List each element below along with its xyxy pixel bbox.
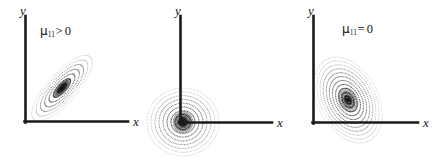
y-axis-label: y (18, 3, 26, 18)
figure-root: y x μ11>0 y x μ11=0 (0, 0, 447, 163)
y-axis-label: y (306, 3, 314, 18)
panel-negative-moment: y x μ11<0 (295, 0, 447, 163)
y-axis-label: y (173, 3, 181, 18)
x-axis-label: x (276, 115, 283, 130)
panel-2-graphic: y x (150, 0, 295, 163)
panel-1-graphic: y x (0, 0, 150, 163)
panel-positive-moment: y x μ11>0 (0, 0, 150, 163)
x-axis-label: x (422, 115, 429, 130)
relation-symbol: > (56, 24, 63, 38)
mu-symbol: μ (40, 24, 48, 38)
moment-label-positive: μ11>0 (40, 24, 71, 39)
contour-group-negative (313, 57, 382, 144)
mu-subscript: 11 (48, 30, 55, 39)
x-axis-label: x (132, 114, 139, 129)
relation-value: 0 (65, 24, 71, 38)
contour-group-positive (31, 55, 92, 121)
panel-zero-moment: y x μ11=0 (150, 0, 295, 163)
panel-3-graphic: y x (295, 0, 447, 163)
